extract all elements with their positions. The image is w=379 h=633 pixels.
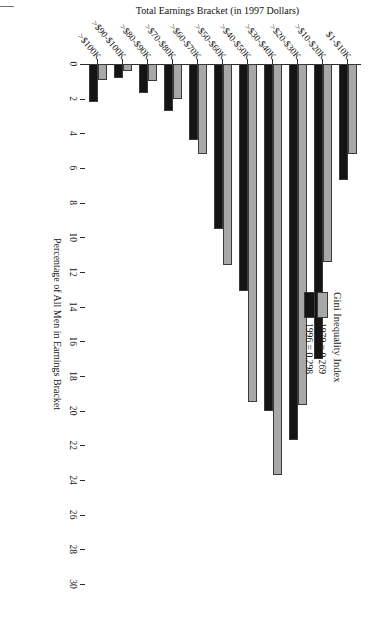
bar-1979->$40-$50K [248, 64, 257, 402]
value-tick [80, 445, 85, 446]
bar-1996->$40-$50K [239, 64, 248, 291]
bar-1979->$10-$20K [323, 64, 332, 262]
legend-swatch-1996 [304, 292, 315, 318]
bar-1979->$70-$80K [173, 64, 182, 99]
value-tick-label: 0 [68, 51, 78, 77]
bar-1979->$50-$60K [223, 64, 232, 265]
value-tick-label: 16 [68, 328, 78, 354]
value-tick [80, 584, 85, 585]
rotated-chart-container: 024681012141618202224262830 $1-$10K>$10-… [0, 0, 379, 633]
value-tick [80, 64, 85, 65]
value-tick [80, 480, 85, 481]
legend-title: Gini Inequality Index [332, 292, 343, 382]
legend-entry-1979: 1979 = 0.269 [317, 292, 328, 382]
bar-1979->$100K [98, 64, 107, 80]
bar-1979->$90-$100K [123, 64, 132, 71]
value-tick-label: 30 [68, 571, 78, 597]
chart-legend: Gini Inequality Index 1979 = 0.269 1996 … [304, 292, 343, 382]
value-tick-label: 2 [68, 86, 78, 112]
value-tick-label: 10 [68, 224, 78, 250]
bar-1979-$1-$10K [348, 64, 357, 154]
value-tick [80, 99, 85, 100]
value-tick [80, 237, 85, 238]
value-tick [80, 515, 85, 516]
bar-1979->$80-$90K [148, 64, 157, 81]
value-tick [80, 133, 85, 134]
value-tick-label: 24 [68, 467, 78, 493]
value-tick [80, 168, 85, 169]
legend-label-1979: 1979 = 0.269 [317, 323, 328, 374]
legend-entry-1996: 1996 = 0.298 [304, 292, 315, 382]
scanned-figure-page: 024681012141618202224262830 $1-$10K>$10-… [0, 0, 379, 633]
legend-label-1996: 1996 = 0.298 [304, 323, 315, 374]
value-tick [80, 411, 85, 412]
legend-swatch-1979 [317, 292, 328, 318]
value-tick-label: 4 [68, 120, 78, 146]
bar-1996->$50-$60K [214, 64, 223, 229]
value-tick [80, 549, 85, 550]
bar-1996->$90-$100K [114, 64, 123, 78]
value-tick [80, 203, 85, 204]
value-tick [80, 272, 85, 273]
value-tick-label: 22 [68, 432, 78, 458]
value-tick-label: 28 [68, 536, 78, 562]
value-tick [80, 376, 85, 377]
category-axis-title: Total Earnings Bracket (in 1997 Dollars) [136, 5, 299, 16]
value-tick [80, 307, 85, 308]
value-tick-label: 6 [68, 155, 78, 181]
value-tick-label: 26 [68, 502, 78, 528]
value-tick-label: 14 [68, 294, 78, 320]
value-axis-title: Percentage of All Men in Earnings Bracke… [52, 238, 63, 410]
bar-1996-$1-$10K [339, 64, 348, 180]
bar-1996->$20-$30K [289, 64, 298, 440]
value-tick [80, 341, 85, 342]
value-tick-label: 20 [68, 398, 78, 424]
bar-1979->$30-$40K [273, 64, 282, 475]
value-tick-label: 12 [68, 259, 78, 285]
bar-1996->$70-$80K [164, 64, 173, 111]
value-tick-label: 8 [68, 190, 78, 216]
bar-1996->$80-$90K [139, 64, 148, 93]
bar-1979->$60-$70K [198, 64, 207, 154]
bar-1996->$30-$40K [264, 64, 273, 411]
bar-1996->$100K [89, 64, 98, 102]
value-tick-label: 18 [68, 363, 78, 389]
bar-1996->$60-$70K [189, 64, 198, 140]
